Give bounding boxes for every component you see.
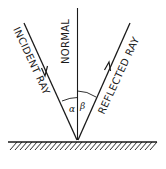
angle-alpha-arc: [62, 98, 78, 102]
surface-hatching: [10, 142, 157, 150]
reflected-ray-label: REFLECTED RAY: [96, 35, 142, 116]
reflected-ray: [78, 23, 130, 140]
angle-alpha-label: α: [69, 104, 75, 114]
reflecting-surface: [8, 142, 157, 150]
incident-ray-label: INCIDENT RAY: [11, 25, 52, 97]
normal-label: NORMAL: [60, 19, 71, 64]
reflection-diagram: α β NORMAL INCIDENT RAY REFLECTED RAY: [0, 0, 166, 169]
angle-beta-arc: [78, 91, 97, 97]
angle-beta-label: β: [79, 101, 85, 111]
